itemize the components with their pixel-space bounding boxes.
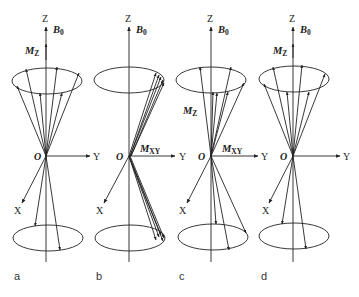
z-label: Z: [207, 13, 213, 24]
panel-a-labels: Z B0 MZ O Y X a: [14, 13, 100, 282]
lower-spin-vectors: [211, 156, 246, 250]
panel-label-c: c: [179, 270, 185, 282]
lower-cone-rim: [95, 225, 165, 251]
y-label: Y: [93, 151, 100, 162]
b0-label: B0: [299, 24, 311, 37]
x-label: X: [96, 205, 104, 216]
nmr-precession-figure: Z B0 MZ O Y X a Z B0: [0, 0, 359, 297]
panel-label-a: a: [14, 270, 21, 282]
lower-cone-rim: [13, 225, 83, 251]
panel-d: [259, 27, 340, 262]
y-label-b: Y: [179, 151, 186, 162]
panel-b-labels: Z B0 MXY O X b: [96, 13, 161, 282]
origin-label: O: [198, 151, 205, 162]
panel-a: [12, 27, 90, 262]
x-label: X: [262, 205, 270, 216]
panel-label-d: d: [261, 270, 267, 282]
panel-c: [176, 27, 258, 262]
upper-spin-vectors: [264, 65, 325, 156]
mz-label: MZ: [182, 105, 197, 118]
upper-cone-rim: [12, 68, 82, 94]
lower-cone-rim: [259, 223, 329, 249]
lower-spin-vectors: [129, 156, 164, 241]
origin-label: O: [116, 151, 123, 162]
z-label: Z: [42, 13, 48, 24]
mxy-label: MXY: [139, 143, 161, 156]
panel-b: [94, 27, 175, 262]
z-label: Z: [289, 13, 295, 24]
upper-cone-rim: [259, 66, 329, 92]
x-axis: [104, 156, 129, 203]
b0-label: B0: [52, 24, 64, 37]
lower-cone-rim: [178, 224, 248, 250]
mz-label: MZ: [24, 45, 39, 58]
origin-label: O: [280, 151, 287, 162]
x-label: X: [14, 205, 22, 216]
panel-d-labels: Z B0 MZ Y Y Y O X d: [179, 13, 350, 282]
x-axis: [187, 156, 211, 203]
mz-label: MZ: [272, 45, 287, 58]
panel-c-labels: Z B0 MZ MXY Y O X c: [179, 13, 268, 282]
mxy-label: MXY: [221, 143, 243, 156]
panel-label-b: b: [96, 270, 102, 282]
b0-label: B0: [135, 24, 147, 37]
origin-label: O: [34, 151, 41, 162]
upper-spin-vectors: [17, 67, 79, 156]
b0-label: B0: [217, 24, 229, 37]
z-label: Z: [125, 13, 131, 24]
x-label: X: [179, 205, 187, 216]
y-label: Y: [343, 151, 350, 162]
